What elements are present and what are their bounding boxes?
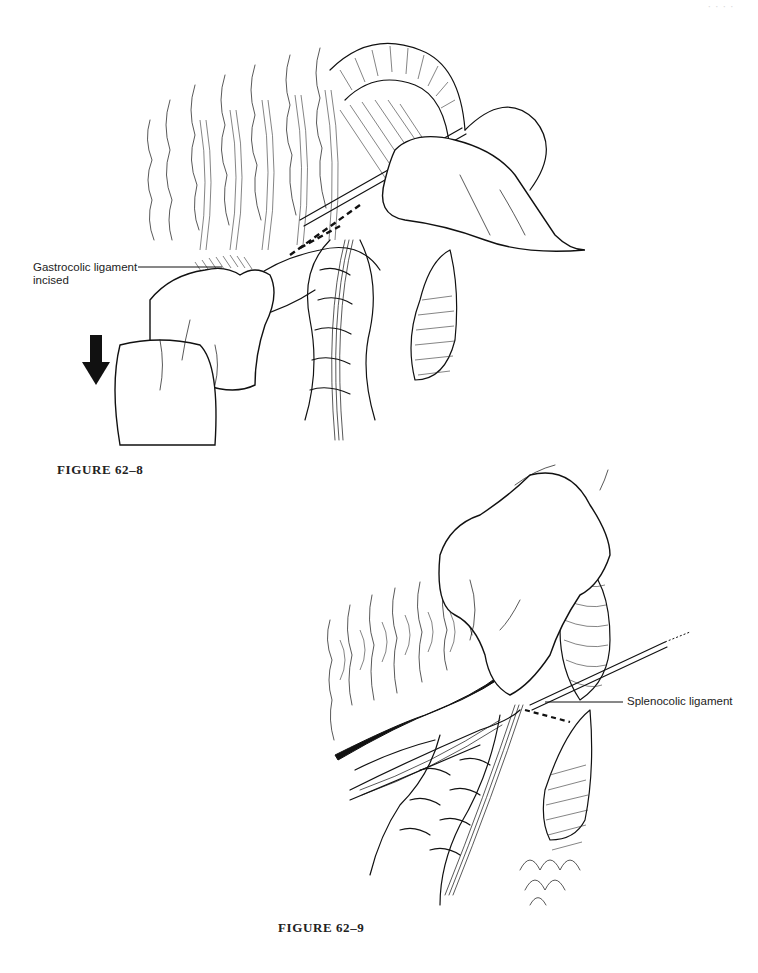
- figure-62-8-illustration: [0, 0, 758, 460]
- textbook-page: · · · ·: [0, 0, 758, 973]
- omentum-strands: [147, 48, 326, 240]
- spleen-region: [411, 250, 457, 380]
- stomach: [330, 43, 465, 150]
- incision-dashed-line: [525, 710, 570, 722]
- surgeon-hand-glove: [439, 473, 610, 695]
- splenocolic-ligament-label: Splenocolic ligament: [627, 695, 732, 708]
- label-line-1: Gastrocolic ligament: [33, 261, 137, 274]
- gastrocolic-ligament-label: Gastrocolic ligament incised: [33, 261, 137, 287]
- figure-62-9-illustration: [0, 460, 758, 973]
- figure-62-9-caption: FIGURE 62–9: [278, 920, 364, 936]
- surgeon-hand-glove: [383, 137, 586, 252]
- arrow-down-icon: [82, 335, 110, 385]
- label-line-2: incised: [33, 274, 137, 287]
- omentum-folds: [200, 90, 338, 250]
